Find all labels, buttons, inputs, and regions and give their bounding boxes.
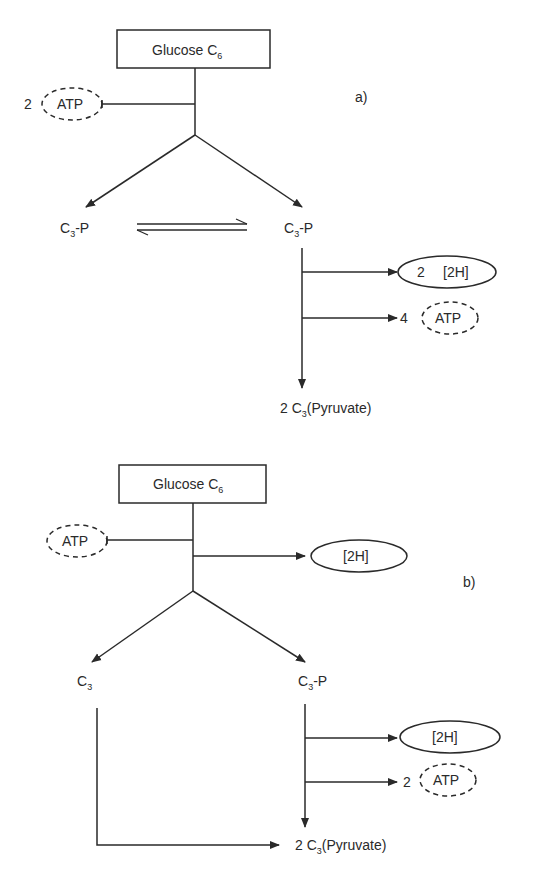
glycolysis-diagrams: Glucose C6 2 ATP a) C3-P C3-P 2 [2H] [0, 0, 536, 886]
left-c3p-a: C3-P [60, 220, 89, 239]
diagram-b: Glucose C6 ATP [2H] b) C3 C3-P [2H] [47, 465, 500, 856]
pyruvate-a: 2 C3(Pyruvate) [280, 400, 371, 419]
panel-label-b: b) [463, 574, 475, 590]
h2-side-output-b: [2H] [193, 540, 407, 572]
svg-text:ATP: ATP [433, 772, 459, 788]
equilibrium-arrows [137, 219, 247, 235]
svg-text:2: 2 [417, 264, 425, 280]
atp-input-a: 2 ATP [24, 88, 195, 120]
diagram-a: Glucose C6 2 ATP a) C3-P C3-P 2 [2H] [24, 30, 496, 419]
svg-text:ATP: ATP [57, 96, 83, 112]
svg-text:2: 2 [24, 96, 32, 112]
right-c3p-a: C3-P [284, 220, 313, 239]
atp-output-b: 2 ATP [305, 764, 476, 796]
glucose-box-a: Glucose C6 [117, 30, 270, 68]
svg-text:[2H]: [2H] [432, 729, 458, 745]
right-c3p-b: C3-P [298, 673, 327, 692]
atp-output-a: 4 ATP [302, 302, 478, 334]
h2-output-b: [2H] [305, 721, 500, 753]
svg-text:[2H]: [2H] [443, 264, 469, 280]
svg-text:Glucose C6: Glucose C6 [153, 476, 223, 495]
svg-text:2: 2 [403, 774, 411, 790]
svg-text:[2H]: [2H] [343, 548, 369, 564]
left-c3-b: C3 [77, 673, 92, 692]
glucose-box-b: Glucose C6 [119, 465, 266, 503]
h2-output-a: 2 [2H] [302, 256, 496, 288]
svg-text:4: 4 [400, 310, 408, 326]
svg-text:ATP: ATP [435, 310, 461, 326]
pyruvate-b: 2 C3(Pyruvate) [295, 837, 386, 856]
atp-input-b: ATP [47, 525, 193, 557]
svg-text:ATP: ATP [62, 533, 88, 549]
svg-text:Glucose C6: Glucose C6 [152, 42, 222, 61]
panel-label-a: a) [355, 89, 367, 105]
